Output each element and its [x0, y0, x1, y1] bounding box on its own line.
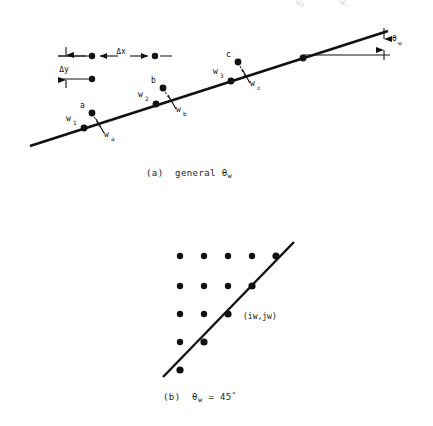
- caption-b-value: 45: [220, 392, 232, 402]
- grid-dot: [177, 283, 183, 289]
- caption-b-degree: °: [232, 391, 237, 399]
- dx-label: Δx: [116, 47, 126, 56]
- dx-dot-right: [152, 53, 158, 59]
- grid-dot: [225, 253, 231, 259]
- grid-dot: [201, 253, 207, 259]
- foot-label-wa-sub: a: [111, 135, 115, 142]
- diagonal-line-b: [163, 242, 294, 377]
- theta-w-label-sub: w: [398, 39, 402, 46]
- point-label-iwjw: (iw,jw): [243, 312, 277, 321]
- wall-node-w3-label: w: [213, 67, 218, 76]
- dx-dot-left: [89, 53, 95, 59]
- grid-dot-highlight-iwjw: [224, 310, 231, 317]
- grid-dot: [249, 253, 255, 259]
- caption-panel-a: (a) general θw: [146, 168, 232, 180]
- grid-dot-on-line: [272, 252, 279, 259]
- grid-dot-on-line: [200, 338, 207, 345]
- caption-b-prefix: (b): [163, 392, 180, 402]
- caption-a-prefix: (a): [146, 168, 163, 178]
- grid-dot-on-line: [176, 366, 183, 373]
- panel-a-group: θ w Δx Δy w 1 w 2: [30, 28, 402, 146]
- dy-dot: [89, 76, 95, 82]
- foot-label-wb: w: [176, 105, 181, 114]
- caption-panel-b: (b) θw = 45°: [163, 391, 236, 404]
- figure-canvas: θ w Δx Δy w 1 w 2: [0, 0, 433, 426]
- wall-node-w1: [81, 125, 88, 132]
- wall-node-w2-label: w: [138, 90, 143, 99]
- data-point-b-label: b: [151, 76, 156, 85]
- data-point-c-label: c: [226, 50, 231, 59]
- wall-node-w1-label: w: [66, 114, 71, 123]
- foot-label-wc-sub: c: [257, 84, 261, 91]
- connector-b: [163, 88, 171, 102]
- connector-c: [238, 62, 245, 76]
- caption-b-symbol-sub: w: [198, 396, 203, 404]
- caption-a-word: general: [175, 168, 216, 178]
- wall-node-w2: [153, 101, 160, 108]
- wall-node-w4: [300, 55, 307, 62]
- caption-b-equals: =: [208, 392, 214, 402]
- grid-dot: [177, 253, 183, 259]
- theta-w-label: θ: [392, 34, 397, 43]
- wall-node-w2-label-sub: 2: [145, 95, 149, 102]
- grid-dot: [177, 311, 183, 317]
- grid-dot: [201, 311, 207, 317]
- foot-label-wc: w: [250, 79, 255, 88]
- wall-node-w3-label-sub: 3: [220, 72, 224, 79]
- data-point-a-label: a: [80, 101, 85, 110]
- foot-label-wa: w: [104, 130, 109, 139]
- caption-a-symbol-sub: w: [228, 172, 233, 180]
- figure-root: wb wc θ w: [0, 0, 433, 426]
- wall-node-w3: [228, 78, 235, 85]
- grid-dot-on-line: [248, 282, 255, 289]
- grid-dot: [225, 283, 231, 289]
- foot-label-wb-sub: b: [183, 110, 187, 117]
- foot-tick-wa: [96, 119, 104, 133]
- grid-dot: [177, 339, 183, 345]
- wall-node-w1-label-sub: 1: [73, 119, 77, 126]
- grid-dot: [201, 283, 207, 289]
- dy-label: Δy: [59, 65, 69, 74]
- panel-b-group: (iw,jw): [163, 242, 294, 377]
